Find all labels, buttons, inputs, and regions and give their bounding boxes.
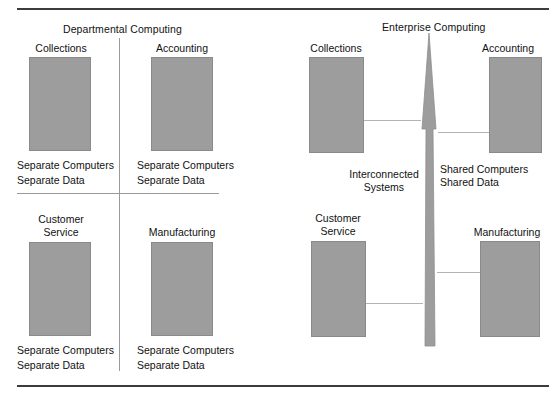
dept-label-collections: Collections xyxy=(19,42,103,55)
bottom-rule xyxy=(17,385,549,387)
ent-label-accounting: Accounting xyxy=(466,42,550,55)
upward-arrow-icon xyxy=(414,33,446,348)
ent-box-customer-service xyxy=(311,241,366,337)
annotation-shared-computers: Shared Computers Shared Data xyxy=(440,163,550,189)
dept-caption-manufacturing: Separate Computers Separate Data xyxy=(137,343,237,373)
dept-box-customer-service xyxy=(29,242,91,336)
dept-box-collections xyxy=(29,57,91,151)
ent-box-collections xyxy=(309,57,364,153)
dept-caption-accounting: Separate Computers Separate Data xyxy=(137,158,237,188)
dept-box-accounting xyxy=(151,57,213,151)
enterprise-computing-title: Enterprise Computing xyxy=(382,21,486,33)
dept-box-manufacturing xyxy=(151,242,213,336)
dept-caption-customer-service: Separate Computers Separate Data xyxy=(17,343,117,373)
ent-label-collections: Collections xyxy=(294,42,378,55)
dept-label-manufacturing: Manufacturing xyxy=(140,226,224,239)
connector-collections-to-arrow xyxy=(363,120,421,121)
ent-label-customer-service: Customer Service xyxy=(296,212,380,238)
dept-caption-collections: Separate Computers Separate Data xyxy=(17,158,117,188)
dept-label-accounting: Accounting xyxy=(140,42,224,55)
ent-box-manufacturing xyxy=(480,241,540,337)
top-rule xyxy=(17,8,549,10)
departmental-computing-title: Departmental Computing xyxy=(63,23,182,35)
left-panel-horizontal-divider xyxy=(17,193,219,194)
figure-canvas: Departmental Computing Collections Separ… xyxy=(0,0,557,399)
dept-label-customer-service: Customer Service xyxy=(19,213,103,239)
left-panel-vertical-divider xyxy=(119,38,120,371)
ent-box-accounting xyxy=(489,57,542,153)
ent-label-manufacturing: Manufacturing xyxy=(462,226,552,239)
